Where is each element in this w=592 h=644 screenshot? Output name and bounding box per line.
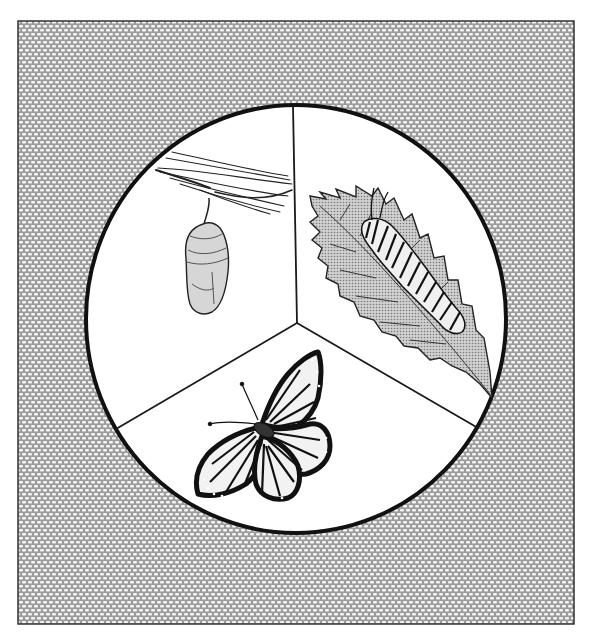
figure-caption (40, 636, 560, 644)
life-cycle-figure (0, 0, 592, 644)
